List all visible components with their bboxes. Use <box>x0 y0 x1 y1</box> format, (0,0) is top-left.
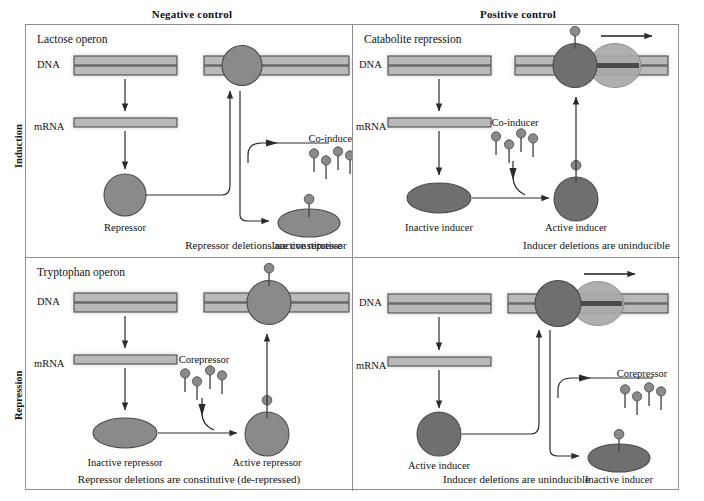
arrowhead-coinducer <box>266 139 278 146</box>
panel-caption: Inducer deletions are uninducible <box>523 239 670 251</box>
dna-label: DNA <box>359 59 382 70</box>
dna-free <box>74 56 177 75</box>
mrna-bar <box>74 118 177 127</box>
result-label: Active inducer <box>545 222 607 233</box>
dna-free <box>388 56 491 75</box>
mrna-bar <box>74 355 177 364</box>
panel-caption: Repressor deletions are constitutive (de… <box>78 473 300 485</box>
mrna-bar <box>388 357 491 366</box>
inactive-repressor <box>93 418 157 448</box>
panel-artwork <box>26 258 353 491</box>
panel-grid: Lactose operon <box>25 24 679 490</box>
mrna-label: mRNA <box>356 360 386 371</box>
column-header-negative-control: Negative control <box>32 8 352 20</box>
panel-catabolite-repression: Catabolite repression <box>353 25 680 258</box>
panel-caption: Inducer deletions are uninducible <box>443 473 590 485</box>
dna-free <box>74 293 177 312</box>
panel-lactose-operon: Lactose operon <box>26 25 353 258</box>
bound-repressor <box>222 46 262 86</box>
mrna-label: mRNA <box>34 358 64 369</box>
result-label: Active repressor <box>232 457 301 468</box>
bound-active-inducer <box>553 26 597 87</box>
arrowhead-corepressor <box>198 404 205 416</box>
effector-label: Co-inducer <box>308 133 353 144</box>
panel-artwork <box>353 25 680 258</box>
mrna-label: mRNA <box>34 121 64 132</box>
panel-artwork <box>26 25 353 258</box>
inactive-repressor <box>278 194 340 237</box>
arrow-to-inactive-repressor <box>240 91 269 221</box>
arrow-inducer-to-dna <box>462 330 539 434</box>
arrow-corepressor-in <box>202 398 214 430</box>
protein-label: Inactive inducer <box>405 222 473 233</box>
dna-label: DNA <box>359 297 382 308</box>
corepressor-molecules <box>620 383 665 415</box>
mrna-bar <box>388 118 491 127</box>
arrow-to-inactive-inducer <box>550 330 579 456</box>
column-header-positive-control: Positive control <box>358 8 678 20</box>
mrna-label: mRNA <box>356 121 386 132</box>
inactive-inducer <box>407 183 471 213</box>
bound-active-repressor <box>247 263 291 324</box>
row-header-repression: Repression <box>13 371 24 420</box>
row-header-induction: Induction <box>13 124 24 168</box>
panel-positive-repression: DNA mRNA Active inducer Corepressor Inac… <box>353 258 680 491</box>
corepressor-molecules <box>180 366 226 400</box>
dna-free <box>388 294 491 313</box>
coinducer-molecules <box>491 129 537 163</box>
active-inducer <box>417 412 461 456</box>
panel-tryptophan-operon: Tryptophan operon <box>26 258 353 491</box>
protein-label: Repressor <box>104 222 146 233</box>
effector-label: Corepressor <box>617 368 668 379</box>
effector-label: Co-inducer <box>491 117 538 128</box>
arrow-coinducer-in <box>513 161 525 195</box>
protein-label: Inactive repressor <box>88 457 163 468</box>
bound-active-inducer <box>535 281 581 327</box>
figure-root: Negative control Positive control Induct… <box>0 0 704 501</box>
inactive-inducer <box>588 429 650 472</box>
arrowhead-coinducer <box>509 168 516 180</box>
effector-label: Corepressor <box>179 354 230 365</box>
arrowhead-corepressor <box>579 374 591 381</box>
dna-label: DNA <box>37 59 60 70</box>
arrow-repressor-to-dna <box>146 91 230 195</box>
panel-caption: Repressor deletions are constitutive <box>185 239 342 251</box>
coinducer-molecules <box>309 147 353 179</box>
protein-label: Active inducer <box>408 460 470 471</box>
result-label: Inactive inducer <box>585 474 653 485</box>
dna-label: DNA <box>37 296 60 307</box>
repressor-protein <box>104 174 146 216</box>
